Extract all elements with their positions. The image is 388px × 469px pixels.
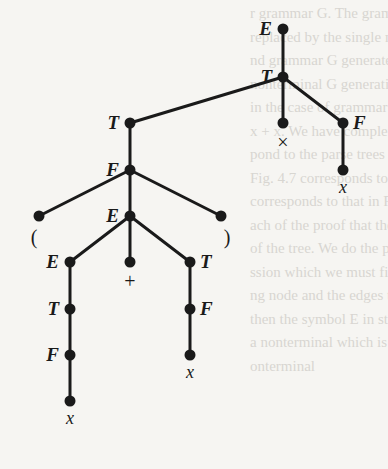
tree-node-dot bbox=[278, 118, 289, 129]
tree-node-dot bbox=[65, 350, 76, 361]
tree-labels: ETT×FxF(E)E+TTFFxx bbox=[31, 18, 366, 428]
tree-node-dot bbox=[278, 24, 289, 35]
tree-edge bbox=[130, 170, 221, 216]
tree-node-dot bbox=[125, 211, 136, 222]
tree-node-label: × bbox=[277, 131, 288, 153]
parse-tree-diagram: ETT×FxF(E)E+TTFFxx bbox=[0, 0, 388, 469]
tree-node-dot bbox=[338, 118, 349, 129]
tree-node-label: F bbox=[199, 298, 213, 319]
tree-node-dot bbox=[65, 257, 76, 268]
tree-node-label: T bbox=[47, 298, 60, 319]
tree-node-label: E bbox=[258, 18, 272, 39]
tree-node-label: E bbox=[105, 205, 119, 226]
tree-node-label: x bbox=[185, 362, 194, 382]
tree-node-dot bbox=[125, 165, 136, 176]
tree-edge bbox=[70, 216, 130, 262]
tree-node-dot bbox=[338, 165, 349, 176]
tree-node-dot bbox=[185, 304, 196, 315]
tree-node-dot bbox=[185, 350, 196, 361]
tree-node-label: T bbox=[107, 112, 120, 133]
tree-node-dot bbox=[65, 396, 76, 407]
tree-edges bbox=[39, 29, 343, 401]
tree-node-dot bbox=[216, 211, 227, 222]
tree-node-label: F bbox=[45, 344, 59, 365]
tree-node-label: E bbox=[45, 251, 59, 272]
tree-node-dot bbox=[125, 118, 136, 129]
tree-node-label: F bbox=[352, 112, 366, 133]
tree-node-label: ) bbox=[224, 226, 231, 249]
tree-node-label: + bbox=[124, 270, 135, 292]
tree-node-label: F bbox=[105, 159, 119, 180]
tree-node-dot bbox=[278, 72, 289, 83]
tree-node-label: x bbox=[338, 177, 347, 197]
tree-node-label: T bbox=[200, 251, 213, 272]
tree-node-label: ( bbox=[31, 226, 38, 249]
tree-node-dot bbox=[34, 211, 45, 222]
tree-edge bbox=[130, 216, 190, 262]
tree-node-dot bbox=[185, 257, 196, 268]
tree-node-dot bbox=[65, 304, 76, 315]
tree-node-label: x bbox=[65, 408, 74, 428]
tree-node-dot bbox=[125, 257, 136, 268]
tree-node-label: T bbox=[260, 66, 273, 87]
tree-edge bbox=[283, 77, 343, 123]
